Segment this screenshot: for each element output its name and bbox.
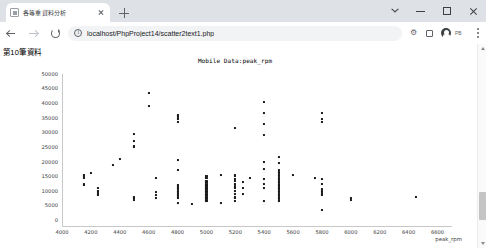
browser-window: 各等重資料分析 localhost/PhpProject14/scatter2t… xyxy=(0,0,486,248)
data-point xyxy=(321,178,323,180)
x-axis-label: peak_rpm xyxy=(435,236,462,242)
vertical-scrollbar[interactable] xyxy=(477,44,486,248)
data-point xyxy=(321,209,323,211)
data-point xyxy=(263,178,265,180)
data-point xyxy=(177,121,179,123)
data-point xyxy=(263,161,265,163)
data-point xyxy=(263,183,265,185)
y-axis-tick: 45000 xyxy=(41,85,58,91)
close-icon[interactable] xyxy=(96,8,106,18)
data-point xyxy=(155,197,157,199)
y-axis-tick: 35000 xyxy=(41,115,58,121)
data-point xyxy=(415,196,417,198)
scroll-down-arrow[interactable] xyxy=(478,239,486,248)
puzzle-icon[interactable]: ⚙ xyxy=(406,22,422,44)
data-point xyxy=(155,191,157,193)
data-point xyxy=(321,183,323,185)
browser-tab[interactable]: 各等重資料分析 xyxy=(6,3,110,22)
data-point xyxy=(83,184,85,186)
data-point xyxy=(314,177,316,179)
scroll-thumb[interactable] xyxy=(479,192,486,220)
scroll-up-arrow[interactable] xyxy=(478,44,486,53)
reload-icon[interactable] xyxy=(44,22,66,44)
x-axis-tick: 6600 xyxy=(431,229,444,235)
chevron-down-icon[interactable] xyxy=(382,0,408,22)
y-axis-tick: 50000 xyxy=(41,71,58,77)
data-point xyxy=(133,146,135,148)
data-point xyxy=(177,184,179,186)
data-point xyxy=(278,200,280,202)
y-axis-tick: 30000 xyxy=(41,129,58,135)
x-axis-tick: 4000 xyxy=(55,229,68,235)
data-point xyxy=(220,174,222,176)
data-point xyxy=(263,187,265,189)
data-point xyxy=(119,158,121,160)
plot-area: 0500010000150002000025000300003500040000… xyxy=(62,74,452,226)
forward-arrow-icon[interactable] xyxy=(22,22,44,44)
avatar-icon[interactable] xyxy=(438,22,454,44)
data-point xyxy=(263,200,265,202)
address-bar[interactable]: localhost/PhpProject14/scatter2text1.php xyxy=(68,26,402,41)
data-point xyxy=(234,175,236,177)
close-window-icon[interactable] xyxy=(460,0,486,22)
x-axis-tick: 5400 xyxy=(258,229,271,235)
data-point xyxy=(321,112,323,114)
x-axis-tick: 4400 xyxy=(113,229,126,235)
x-axis-tick: 5800 xyxy=(315,229,328,235)
x-axis-line xyxy=(62,226,452,227)
url-text: localhost/PhpProject14/scatter2text1.php xyxy=(87,30,214,37)
data-point xyxy=(97,194,99,196)
data-point xyxy=(234,197,236,199)
data-point xyxy=(263,134,265,136)
x-axis-tick: 4600 xyxy=(142,229,155,235)
back-arrow-icon[interactable] xyxy=(0,22,22,44)
chart-title: Mobile Data:peak_rpm xyxy=(0,57,470,64)
data-point xyxy=(234,190,236,192)
data-point xyxy=(205,200,207,202)
y-axis-tick: 40000 xyxy=(41,100,58,106)
y-axis-tick: 5000 xyxy=(45,202,58,208)
data-point xyxy=(191,203,193,205)
x-axis-tick: 5000 xyxy=(200,229,213,235)
minimize-icon[interactable] xyxy=(408,0,434,22)
data-point xyxy=(321,118,323,120)
data-point xyxy=(148,105,150,107)
y-axis-tick: 15000 xyxy=(41,173,58,179)
data-point xyxy=(133,133,135,135)
x-axis-tick: 5600 xyxy=(287,229,300,235)
data-point xyxy=(278,162,280,164)
data-point xyxy=(234,180,236,182)
data-point xyxy=(263,101,265,103)
data-point xyxy=(177,202,179,204)
data-point xyxy=(97,190,99,192)
x-axis-tick: 4800 xyxy=(171,229,184,235)
data-point xyxy=(249,177,251,179)
data-point xyxy=(97,187,99,189)
x-axis-tick: 6400 xyxy=(402,229,415,235)
data-point xyxy=(242,187,244,189)
page-content: 第10筆資料 Mobile Data:peak_rpm 050001000015… xyxy=(0,44,486,248)
data-point xyxy=(234,127,236,129)
data-point xyxy=(350,199,352,201)
kebab-menu-icon[interactable] xyxy=(470,22,486,44)
data-point xyxy=(155,194,157,196)
tab-strip: 各等重資料分析 xyxy=(0,0,486,22)
data-point xyxy=(220,202,222,204)
info-circle-icon[interactable] xyxy=(74,29,82,37)
data-point xyxy=(263,168,265,170)
data-point xyxy=(263,123,265,125)
data-point xyxy=(177,114,179,116)
data-point xyxy=(242,193,244,195)
data-point xyxy=(83,174,85,176)
data-point xyxy=(90,172,92,174)
profile-badge: PB xyxy=(454,22,470,44)
data-point xyxy=(205,175,207,177)
maximize-icon[interactable] xyxy=(434,0,460,22)
data-point xyxy=(321,194,323,196)
data-point xyxy=(234,183,236,185)
data-point xyxy=(234,200,236,202)
data-point xyxy=(177,197,179,199)
new-tab-button[interactable] xyxy=(115,4,133,22)
side-panel-icon[interactable] xyxy=(422,22,438,44)
window-controls xyxy=(382,0,486,22)
